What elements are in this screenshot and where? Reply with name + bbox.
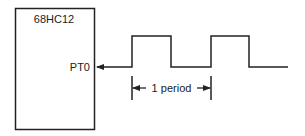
pin-label: PT0 [70, 61, 90, 73]
square-wave-input-diagram: 68HC12 PT0 1 period [0, 0, 305, 136]
microcontroller-block: 68HC12 PT0 [16, 9, 95, 130]
chip-name-label: 68HC12 [34, 13, 74, 25]
period-annotation: 1 period [132, 76, 211, 100]
waveform-line [97, 36, 288, 67]
square-wave-signal [97, 36, 288, 67]
period-label: 1 period [152, 82, 192, 94]
